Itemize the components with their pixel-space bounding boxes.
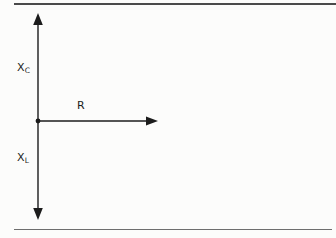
up-arrowhead-icon: [33, 13, 43, 25]
label-resistance: R: [77, 100, 85, 111]
label-capacitive-reactance: XC: [17, 62, 30, 75]
right-arrowhead-icon: [146, 116, 158, 125]
origin-dot: [36, 119, 41, 124]
label-xl-subscript: L: [25, 156, 29, 165]
label-inductive-reactance: XL: [17, 152, 29, 165]
label-xc-subscript: C: [25, 66, 30, 75]
down-arrowhead-icon: [33, 208, 43, 220]
label-xl-base: X: [17, 151, 25, 164]
axes-figure: XC R XL: [0, 0, 336, 238]
label-xc-base: X: [17, 61, 25, 74]
axes-svg: [0, 0, 336, 238]
